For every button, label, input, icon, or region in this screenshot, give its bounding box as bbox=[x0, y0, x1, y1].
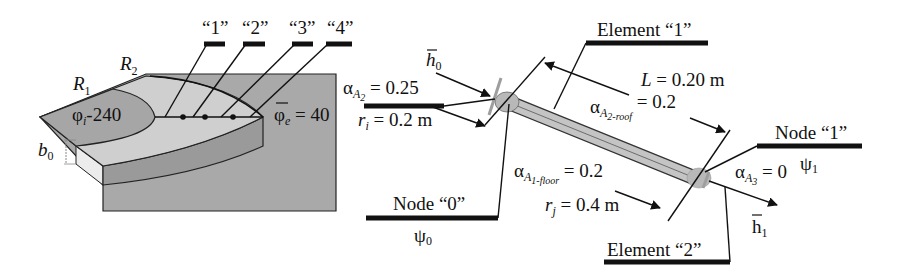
alpha-a1-floor-label: αA1-floor = 0.2 bbox=[514, 160, 603, 186]
point-label-3: “3” bbox=[289, 17, 315, 38]
diagram-canvas: “1” “2” “3” “4” R1 R2 b0 φi-240 φe = 40 bbox=[0, 0, 900, 277]
element-2-label: Element “2” bbox=[607, 239, 701, 260]
phi-e-label: φe = 40 bbox=[274, 104, 330, 128]
point-2 bbox=[202, 114, 208, 120]
point-label-1: “1” bbox=[202, 17, 228, 38]
alpha-a3-label: αA3 = 0 bbox=[735, 161, 787, 187]
alpha-a2-roof-label: αA2-roof = 0.2 bbox=[590, 91, 676, 122]
point-3 bbox=[230, 114, 236, 120]
psi-1-label: ψ1 bbox=[800, 153, 818, 176]
element-model-figure: Element “1” Element “2” Node “0” Node “1… bbox=[343, 19, 862, 262]
alpha-a2-label: αA2 = 0.25 bbox=[343, 77, 419, 103]
ri-label: ri = 0.2 m bbox=[358, 109, 432, 133]
node-0-label: Node “0” bbox=[393, 193, 465, 214]
point-1 bbox=[180, 114, 186, 120]
psi-0-label: ψ0 bbox=[414, 225, 432, 248]
length-label: L = 0.20 m bbox=[640, 69, 725, 90]
heat-region-figure: “1” “2” “3” “4” R1 R2 b0 φi-240 φe = 40 bbox=[38, 17, 353, 211]
h0-label: h0 bbox=[426, 49, 442, 73]
point-label-2: “2” bbox=[242, 17, 268, 38]
b0-label: b0 bbox=[38, 139, 54, 163]
r2-label: R2 bbox=[119, 53, 138, 78]
element-1-label: Element “1” bbox=[597, 19, 691, 40]
node-1-label: Node “1” bbox=[775, 122, 847, 143]
phi-i-label: φi-240 bbox=[72, 104, 121, 128]
rj-label: rj = 0.4 m bbox=[545, 194, 619, 218]
point-label-4: “4” bbox=[327, 17, 353, 38]
h1-label: h1 bbox=[752, 216, 768, 240]
r1-label: R1 bbox=[72, 73, 91, 98]
